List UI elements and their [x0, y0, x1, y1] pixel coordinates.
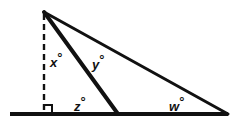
degree-symbol-icon: °	[99, 52, 104, 67]
figure-canvas	[0, 0, 238, 124]
angle-label-w-variable: w	[169, 99, 179, 114]
angle-label-z: z°	[74, 95, 86, 113]
angle-label-x: x°	[50, 51, 62, 69]
geometry-figure: x° y° z° w°	[0, 0, 238, 124]
degree-symbol-icon: °	[179, 94, 184, 109]
angle-label-w: w°	[169, 95, 184, 113]
degree-symbol-icon: °	[57, 50, 62, 65]
degree-symbol-icon: °	[81, 94, 86, 109]
angle-label-y: y°	[92, 53, 104, 71]
hypotenuse-line	[44, 12, 228, 114]
